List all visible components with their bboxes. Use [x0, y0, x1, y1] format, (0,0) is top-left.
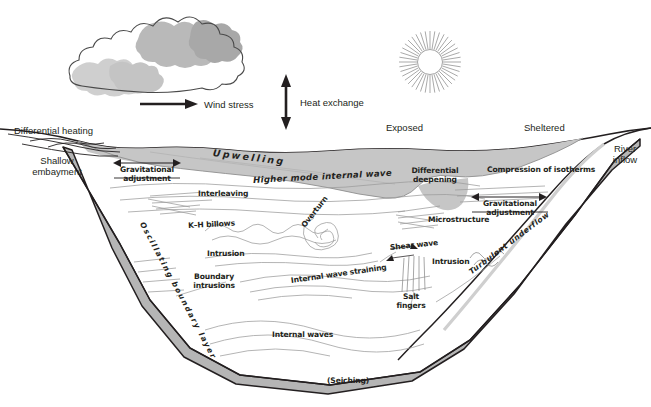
- label-compression-of-isotherms: Compression of isotherms: [487, 165, 595, 174]
- label-grav-adjust-left-line1: Gravitational: [113, 165, 181, 174]
- label-internal-waves: Internal waves: [272, 330, 333, 339]
- label-wind-stress: Wind stress: [204, 99, 254, 110]
- label-seiching: (Seiching): [327, 376, 369, 385]
- label-river-inflow-line2: inflow: [604, 154, 646, 165]
- label-river-inflow-line1: River: [604, 143, 646, 154]
- label-salt-fingers-line1: Salt: [392, 292, 430, 301]
- label-salt-fingers: Salt fingers: [392, 292, 430, 310]
- label-interleaving: Interleaving: [198, 189, 248, 198]
- label-grav-adjust-right-line1: Gravitational: [471, 199, 549, 208]
- cloud-icon: [69, 17, 244, 97]
- figure-canvas: Differential heating Shallow embayment E…: [0, 0, 651, 407]
- label-differential-deepening-line2: deepening: [406, 175, 464, 184]
- label-differential-deepening: Differential deepening: [406, 166, 464, 184]
- label-boundary-intrusions: Boundary intrusions: [186, 272, 242, 290]
- label-sheltered: Sheltered: [524, 122, 565, 133]
- label-shallow-embayment: Shallow embayment: [18, 155, 96, 177]
- label-grav-adjust-left-line2: adjustment: [113, 174, 181, 183]
- sun-icon: [399, 31, 461, 93]
- label-differential-heating: Differential heating: [14, 125, 93, 136]
- label-microstructure: Microstructure: [428, 215, 489, 224]
- label-shallow-embayment-line2: embayment: [18, 166, 96, 177]
- label-boundary-intrusions-line2: intrusions: [186, 281, 242, 290]
- label-river-inflow: River inflow: [604, 143, 646, 165]
- label-exposed: Exposed: [386, 122, 423, 133]
- wind-stress-arrow-icon: [140, 99, 198, 109]
- label-heat-exchange: Heat exchange: [300, 97, 364, 108]
- label-salt-fingers-line2: fingers: [392, 301, 430, 310]
- label-differential-deepening-line1: Differential: [406, 166, 464, 175]
- label-gravitational-adjustment-left: Gravitational adjustment: [113, 165, 181, 183]
- label-intrusion-right: Intrusion: [432, 257, 469, 266]
- label-shallow-embayment-line1: Shallow: [18, 155, 96, 166]
- label-boundary-intrusions-line1: Boundary: [186, 272, 242, 281]
- heat-exchange-arrow-icon: [281, 74, 291, 130]
- label-intrusion-left: Intrusion: [207, 249, 244, 258]
